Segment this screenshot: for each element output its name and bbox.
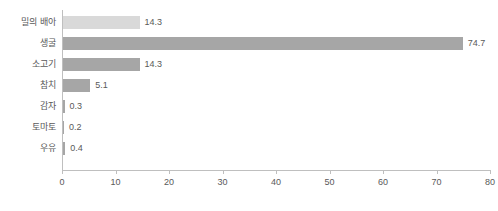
x-tick-mark (116, 170, 117, 174)
x-tick-mark (223, 170, 224, 174)
category-label: 우유 (0, 143, 56, 154)
x-tick-label: 10 (110, 177, 120, 187)
bar-and-value: 14.3 (63, 16, 162, 29)
bar (63, 121, 64, 134)
bar-row: 참치5.1 (0, 75, 498, 96)
bar-row: 생굴74.7 (0, 33, 498, 54)
bar-row: 토마토0.2 (0, 117, 498, 138)
bar (63, 37, 463, 50)
x-tick-label: 40 (271, 177, 281, 187)
bar-row: 소고기14.3 (0, 54, 498, 75)
bar-and-value: 0.3 (63, 100, 82, 113)
bar (63, 142, 65, 155)
x-tick-label: 70 (431, 177, 441, 187)
x-tick-mark (330, 170, 331, 174)
category-label: 밀의 배아 (0, 17, 56, 28)
bar-and-value: 74.7 (63, 37, 485, 50)
bar-row: 감자0.3 (0, 96, 498, 117)
x-tick-mark (383, 170, 384, 174)
category-label: 감자 (0, 101, 56, 112)
x-tick-label: 50 (324, 177, 334, 187)
bar-rows: 밀의 배아14.3생굴74.7소고기14.3참치5.1감자0.3토마토0.2우유… (0, 12, 498, 159)
x-tick-mark (169, 170, 170, 174)
value-label: 0.4 (70, 143, 83, 154)
bar (63, 100, 65, 113)
bar-and-value: 14.3 (63, 58, 162, 71)
x-tick-label: 20 (164, 177, 174, 187)
value-label: 14.3 (145, 17, 163, 28)
value-label: 74.7 (468, 38, 486, 49)
category-label: 토마토 (0, 122, 56, 133)
bar (63, 58, 140, 71)
bar-row: 밀의 배아14.3 (0, 12, 498, 33)
x-tick-mark (62, 170, 63, 174)
x-tick-mark (437, 170, 438, 174)
bar-and-value: 0.2 (63, 121, 82, 134)
x-tick-label: 80 (485, 177, 495, 187)
category-label: 참치 (0, 80, 56, 91)
bar (63, 16, 140, 29)
x-axis-ticks: 01020304050607080 (0, 170, 498, 200)
bar-row: 우유0.4 (0, 138, 498, 159)
x-tick-mark (276, 170, 277, 174)
bar-and-value: 0.4 (63, 142, 83, 155)
value-label: 0.2 (69, 122, 82, 133)
category-label: 소고기 (0, 59, 56, 70)
plot-area: 밀의 배아14.3생굴74.7소고기14.3참치5.1감자0.3토마토0.2우유… (0, 0, 498, 211)
x-tick-label: 0 (59, 177, 64, 187)
x-tick-mark (490, 170, 491, 174)
x-tick-label: 30 (217, 177, 227, 187)
value-label: 5.1 (95, 80, 108, 91)
bar-chart: 밀의 배아14.3생굴74.7소고기14.3참치5.1감자0.3토마토0.2우유… (0, 0, 498, 211)
value-label: 14.3 (145, 59, 163, 70)
x-tick-label: 60 (378, 177, 388, 187)
category-label: 생굴 (0, 38, 56, 49)
bar (63, 79, 90, 92)
bar-and-value: 5.1 (63, 79, 108, 92)
value-label: 0.3 (70, 101, 83, 112)
